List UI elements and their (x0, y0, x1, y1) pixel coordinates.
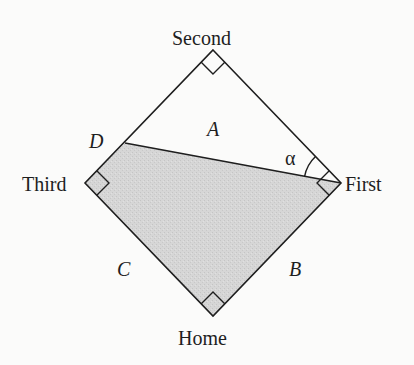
label-second: Second (172, 27, 231, 49)
label-angle-alpha: α (285, 147, 296, 169)
label-region-b: B (289, 258, 301, 280)
baseball-diamond-diagram: Second Third First Home D A B C α (0, 0, 414, 365)
label-first: First (345, 173, 382, 195)
shaded-region (85, 143, 341, 316)
label-third: Third (22, 173, 66, 195)
label-region-a: A (205, 118, 220, 140)
label-region-c: C (117, 258, 131, 280)
angle-alpha-arc (305, 156, 316, 176)
label-home: Home (178, 327, 227, 349)
label-point-d: D (88, 130, 104, 152)
right-angle-mark-second (201, 62, 225, 74)
